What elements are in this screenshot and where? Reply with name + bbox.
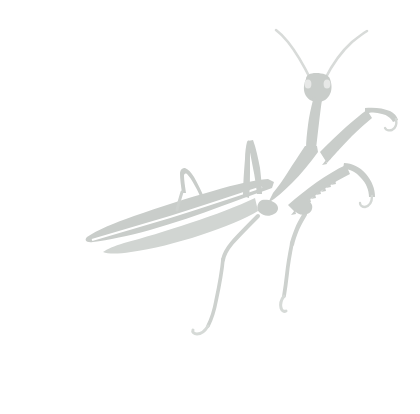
eye-right-shape: [324, 79, 331, 88]
image-canvas: Light gray silhouette of a praying manti…: [0, 0, 420, 414]
praying-mantis-illustration: [0, 0, 420, 414]
eye-left-shape: [305, 79, 312, 88]
